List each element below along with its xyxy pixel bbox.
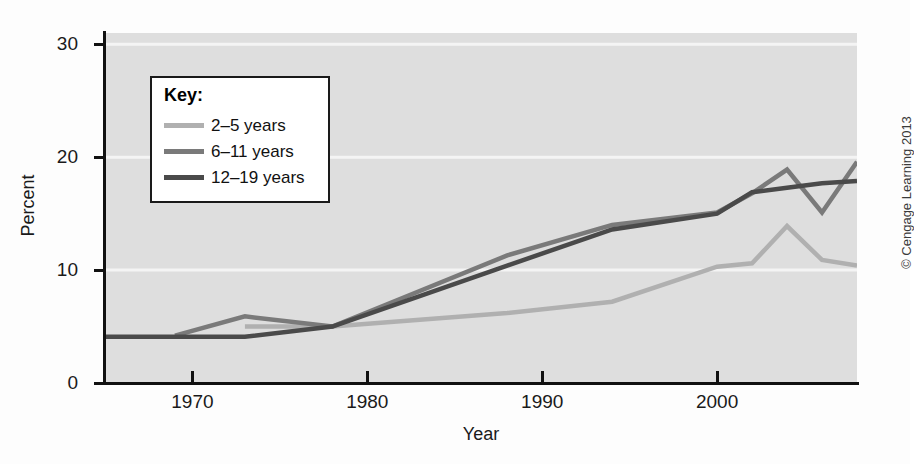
x-axis-line bbox=[103, 382, 859, 385]
x-axis-title: Year bbox=[105, 424, 857, 445]
x-tick-1980 bbox=[366, 371, 369, 383]
y-tick-20 bbox=[94, 156, 105, 159]
y-tick-label-10: 10 bbox=[34, 260, 78, 279]
y-tick-label-20: 20 bbox=[34, 147, 78, 166]
y-tick-label-0: 0 bbox=[34, 373, 78, 392]
y-tick-0 bbox=[94, 382, 105, 385]
x-tick-1990 bbox=[541, 371, 544, 383]
x-tick-label-1990: 1990 bbox=[502, 392, 582, 411]
legend-item-6-11-years: 6–11 years bbox=[164, 139, 318, 165]
x-tick-label-1980: 1980 bbox=[327, 392, 407, 411]
y-axis-title: Percent bbox=[18, 146, 39, 266]
legend-swatch-6-11-years bbox=[164, 149, 204, 154]
y-tick-10 bbox=[94, 269, 105, 272]
x-tick-1970 bbox=[191, 371, 194, 383]
x-tick-2000 bbox=[716, 371, 719, 383]
x-tick-label-1970: 1970 bbox=[152, 392, 232, 411]
y-axis-line bbox=[103, 31, 106, 385]
copyright-credit: © Cengage Learning 2013 bbox=[899, 93, 914, 293]
x-tick-label-2000: 2000 bbox=[677, 392, 757, 411]
legend-swatch-12-19-years bbox=[164, 175, 204, 180]
legend-label-2-5-years: 2–5 years bbox=[211, 117, 286, 134]
legend-label-6-11-years: 6–11 years bbox=[211, 143, 294, 160]
legend-title: Key: bbox=[164, 86, 318, 106]
legend-item-2-5-years: 2–5 years bbox=[164, 113, 318, 139]
legend-box: Key: 2–5 years 6–11 years 12–19 years bbox=[150, 76, 330, 203]
y-tick-30 bbox=[94, 43, 105, 46]
legend-item-12-19-years: 12–19 years bbox=[164, 165, 318, 191]
legend-swatch-2-5-years bbox=[164, 123, 204, 128]
y-tick-label-30: 30 bbox=[34, 34, 78, 53]
legend-label-12-19-years: 12–19 years bbox=[211, 169, 305, 186]
